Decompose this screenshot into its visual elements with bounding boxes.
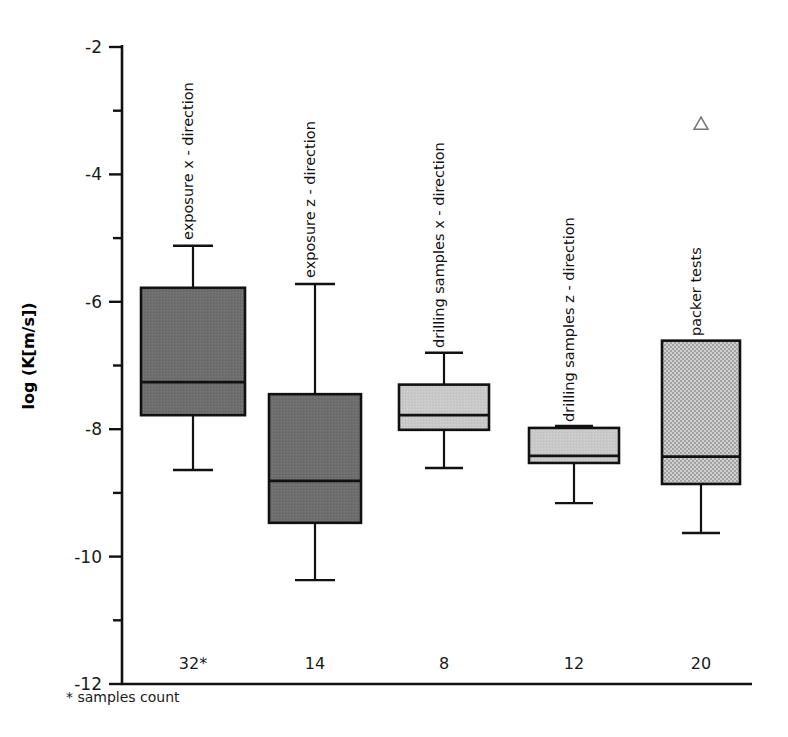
sample-count-label: 8 bbox=[439, 654, 449, 673]
box-plot-item[interactable] bbox=[529, 426, 619, 503]
y-tick-label: -8 bbox=[85, 419, 102, 439]
y-axis-title-group: log (K[m/s]) bbox=[19, 302, 38, 409]
y-tick-label: -4 bbox=[85, 164, 102, 184]
outlier-marker[interactable] bbox=[694, 117, 708, 129]
category-label: exposure z - direction bbox=[302, 121, 318, 278]
boxplot-figure: -2-4-6-8-10-12 log (K[m/s]) exposure x -… bbox=[0, 0, 788, 737]
box-plot-item[interactable] bbox=[141, 246, 245, 470]
y-tick-label: -10 bbox=[74, 547, 102, 567]
box-rect[interactable] bbox=[399, 385, 489, 430]
category-label: packer tests bbox=[688, 247, 704, 336]
boxplot-canvas: -2-4-6-8-10-12 log (K[m/s]) exposure x -… bbox=[0, 0, 788, 737]
y-axis-title: log (K[m/s]) bbox=[19, 302, 38, 409]
sample-count-labels: 32*1481220 bbox=[179, 654, 711, 673]
box-rect[interactable] bbox=[141, 288, 245, 415]
category-labels: exposure x - directionexposure z - direc… bbox=[180, 82, 704, 422]
sample-count-label: 32* bbox=[179, 654, 207, 673]
box-rect[interactable] bbox=[269, 394, 361, 523]
box-rect[interactable] bbox=[529, 428, 619, 463]
box-rect[interactable] bbox=[662, 341, 740, 484]
category-label: drilling samples z - direction bbox=[561, 217, 577, 422]
category-label: exposure x - direction bbox=[180, 82, 196, 240]
footnote-text: * samples count bbox=[66, 689, 180, 705]
category-label: drilling samples x - direction bbox=[431, 142, 447, 348]
box-plot-item[interactable] bbox=[269, 284, 361, 580]
y-tick-label: -2 bbox=[85, 37, 102, 57]
sample-count-label: 12 bbox=[564, 654, 584, 673]
y-tick-label: -6 bbox=[85, 292, 102, 312]
footnote-group: * samples count bbox=[66, 689, 180, 705]
sample-count-label: 20 bbox=[691, 654, 711, 673]
sample-count-label: 14 bbox=[305, 654, 325, 673]
box-plot-item[interactable] bbox=[399, 353, 489, 468]
